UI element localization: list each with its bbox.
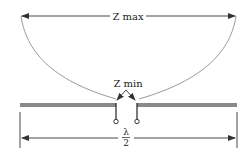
denominator-label: 2 [123, 138, 129, 148]
zmin-arrow-left [117, 90, 126, 100]
zmin-label: Z min [113, 78, 143, 89]
feed-terminal-right [135, 119, 139, 123]
antenna-left-element [20, 103, 116, 107]
zmin-arrow-right [126, 90, 135, 100]
feed-terminal-left [114, 119, 118, 123]
lambda-label: λ [123, 127, 129, 137]
half-wave-dipole-impedance-diagram: Z max Z min λ 2 [0, 0, 247, 153]
antenna-right-element [137, 103, 237, 107]
zmax-label: Z max [112, 11, 144, 22]
